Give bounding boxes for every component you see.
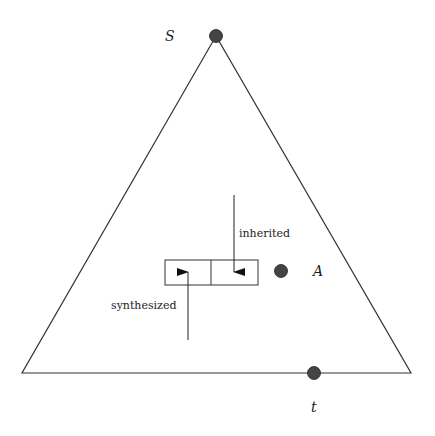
synthesized-label: synthesized [111, 299, 176, 312]
inner-label: A [311, 263, 323, 279]
parse-tree-triangle [22, 36, 411, 373]
attribute-flow-diagram: S t A inherited synthesized [0, 0, 435, 436]
inherited-label: inherited [239, 227, 290, 240]
leaf-node-t [308, 367, 321, 380]
leaf-label: t [311, 399, 317, 415]
root-label: S [165, 28, 175, 44]
root-node-s [210, 30, 223, 43]
inner-node-a [275, 265, 288, 278]
